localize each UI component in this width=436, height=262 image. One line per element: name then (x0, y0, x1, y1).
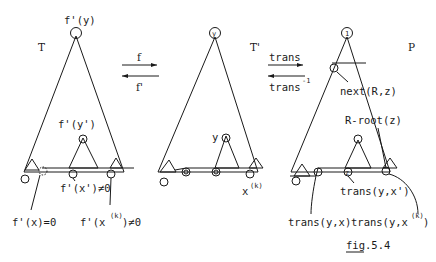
tree-P-trans-xk-label-base: trans(y,x (351, 216, 408, 228)
tree-T-fxk-label-base: f'(x (80, 216, 105, 228)
arrow-transinv-label: trans (269, 81, 301, 93)
tree-P-z-label: z (345, 169, 349, 177)
arrow-trans-back-head (268, 74, 274, 78)
tree-T-fxk-label-tail: )≠0 (122, 216, 141, 228)
tree-P-next-leader (337, 72, 348, 82)
tree-T-name: T (38, 41, 45, 53)
tree-Tprime-xk-label-base: x (242, 185, 248, 197)
tree-P-x-leader (311, 176, 316, 214)
figure-caption: fig .5.4 (346, 239, 390, 252)
arrow-f-forward-head (151, 63, 157, 67)
caption-fig: fig (346, 239, 365, 251)
tree-P-z-leader (348, 176, 354, 183)
tree-T-fxk-label-sup: (k) (110, 212, 123, 220)
tree-T-outline (24, 36, 124, 172)
tree-T-root-label: f'(y) (64, 14, 96, 26)
tree-T-fx-label: f'(x)=0 (12, 216, 56, 228)
tree-P-left-node (292, 177, 300, 185)
tree-Tprime-xk-label-sup: (k) (250, 182, 263, 190)
tree-Tprime-name: T' (250, 41, 260, 53)
tree-P: 1 P next(R,z) R-root(z) z trans(y,x') tr… (288, 28, 429, 229)
tree-P-left-subtree (294, 164, 310, 176)
arrow-transinv-sup: -1 (302, 77, 310, 85)
tree-P-trans-xk-label-sup: (k) (411, 212, 424, 220)
tree-P-next-label: next(R,z) (340, 85, 397, 97)
tree-T-yprime-label: f'(y') (58, 118, 96, 130)
tree-P-trans-x-label: trans(y,x) (288, 216, 351, 228)
tree-P-trans-x1-label: trans(y,x') (340, 185, 410, 197)
arrow-fprime-label: f' (136, 81, 143, 93)
tree-Tprime-y-label: y (212, 131, 218, 143)
tree-T-fx1-label: f'(x')≠0 (60, 182, 111, 194)
tree-T-right-subtree (110, 158, 122, 168)
tree-P-name: P (408, 41, 415, 53)
arrow-trans-forward-head (297, 63, 303, 67)
caption-number: .5.4 (365, 239, 390, 251)
tree-T-x-node (21, 175, 29, 183)
tree-P-subtree (345, 140, 371, 168)
tree-Tprime-outline (158, 37, 258, 172)
tree-T-xprime-leader (73, 178, 75, 181)
arrows-f: f f' (122, 51, 159, 93)
tree-P-rroot-leader (378, 128, 386, 168)
tree-T-xprime-node (69, 170, 77, 178)
tree-T: f'(y) T f'(y') f'(x')≠0 f'(x)=0 f'(x (k)… (12, 14, 141, 228)
tree-P-root-label: 1 (345, 30, 349, 38)
tree-Tprime: y T' y x (k) (158, 28, 263, 198)
figure-canvas: f'(y) T f'(y') f'(x')≠0 f'(x)=0 f'(x (k)… (0, 0, 436, 262)
tree-Tprime-left-node (160, 178, 168, 186)
tree-Tprime-xk-node (246, 170, 254, 178)
tree-P-rroot-label: R-root(z) (345, 114, 402, 126)
tree-P-outline (291, 37, 390, 172)
arrows-trans: trans trans -1 (268, 51, 310, 93)
tree-Tprime-root-label: y (212, 30, 216, 38)
arrow-f-back-head (122, 74, 128, 78)
tree-T-xk-node (107, 170, 115, 178)
tree-P-trans-xk-label-tail: ) (423, 216, 429, 228)
arrow-f-label: f (137, 51, 142, 63)
tree-Tprime-subtree (215, 136, 239, 168)
tree-T-x-leader (31, 175, 40, 210)
arrow-trans-label: trans (269, 51, 301, 63)
